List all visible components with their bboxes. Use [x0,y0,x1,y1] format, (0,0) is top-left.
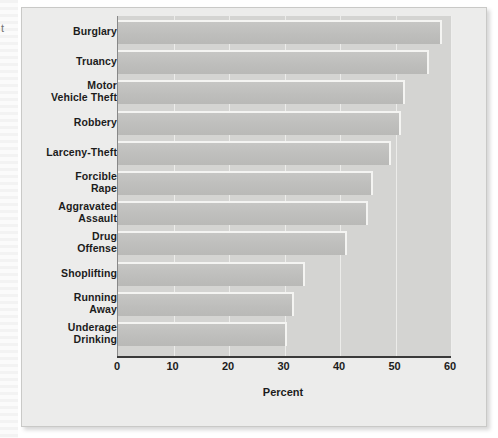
category-label: Robbery [0,116,117,128]
category-label: Burglary [0,25,117,37]
bar-fill [118,262,305,286]
category-label: RunningAway [0,291,117,315]
x-tick-label-20: 20 [208,360,248,372]
bar [118,141,391,165]
bar-fill [118,292,294,316]
x-tick-label-50: 50 [375,360,415,372]
plot-area [117,16,451,356]
bar [118,80,405,104]
bar [118,262,305,286]
bar [118,322,287,346]
x-tick-label-10: 10 [153,360,193,372]
bar-fill [118,141,391,165]
bar [118,231,347,255]
category-label: ForcibleRape [0,170,117,194]
category-label: DrugOffense [0,230,117,254]
category-label: Truancy [0,55,117,67]
figure-frame: BurglaryTruancyMotorVehicle TheftRobbery… [21,7,487,427]
x-axis-title: Percent [22,386,488,398]
bar [118,50,429,74]
bar [118,111,401,135]
bar-fill [118,201,368,225]
category-label: UnderageDrinking [0,321,117,345]
bar [118,201,368,225]
bar [118,292,294,316]
category-label: MotorVehicle Theft [0,79,117,103]
bar [118,20,442,44]
bar-fill [118,50,429,74]
x-tick-label-30: 30 [264,360,304,372]
category-labels-column: BurglaryTruancyMotorVehicle TheftRobbery… [32,16,117,356]
bar-fill [118,171,373,195]
bar-fill [118,111,401,135]
bar-fill [118,80,405,104]
bar-fill [118,322,287,346]
category-label: Larceny-Theft [0,146,117,158]
category-label: AggravatedAssault [0,200,117,224]
gridline-60 [451,16,452,356]
bar-chart: BurglaryTruancyMotorVehicle TheftRobbery… [22,8,488,428]
x-axis-line [117,356,451,358]
bar [118,171,373,195]
x-tick-label-60: 60 [430,360,470,372]
category-label: Shoplifting [0,267,117,279]
x-tick-label-0: 0 [97,360,137,372]
x-tick-label-40: 40 [319,360,359,372]
bar-fill [118,20,442,44]
bar-fill [118,231,347,255]
